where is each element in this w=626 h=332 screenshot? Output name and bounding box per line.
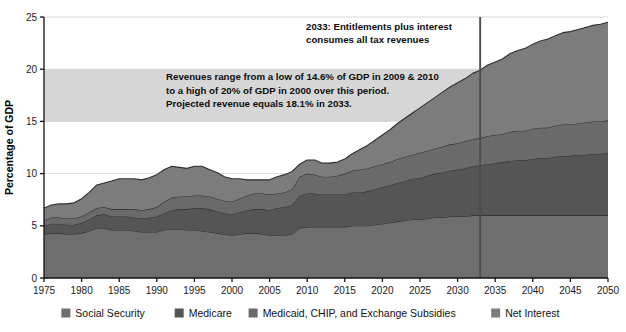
- chart-container: 0510152025197519801985199019952000200520…: [0, 0, 626, 332]
- legend-swatch-3: [491, 309, 500, 318]
- x-tick-label: 2050: [597, 285, 620, 296]
- stacked-area-chart: 0510152025197519801985199019952000200520…: [0, 0, 626, 332]
- y-tick-label: 20: [26, 64, 38, 75]
- x-tick-label: 2040: [522, 285, 545, 296]
- y-tick-label: 10: [26, 168, 38, 179]
- x-tick-label: 1990: [146, 285, 169, 296]
- x-tick-label: 2045: [559, 285, 582, 296]
- revenue-band-annotation-line: Projected revenue equals 18.1% in 2033.: [166, 98, 352, 109]
- revenue-band-annotation-line: to a high of 20% of GDP in 2000 over thi…: [166, 85, 390, 96]
- marker-annotation-line: consumes all tax revenues: [306, 34, 429, 45]
- x-tick-label: 2010: [296, 285, 319, 296]
- y-tick-label: 0: [31, 273, 37, 284]
- x-tick-label: 1995: [183, 285, 206, 296]
- x-tick-label: 2025: [409, 285, 432, 296]
- y-tick-label: 15: [26, 116, 38, 127]
- y-axis-ticks: 0510152025: [26, 12, 44, 284]
- legend-label-1: Medicare: [189, 307, 232, 319]
- x-tick-label: 1980: [70, 285, 93, 296]
- legend-swatch-1: [175, 309, 184, 318]
- revenue-band-annotation-line: Revenues range from a low of 14.6% of GD…: [166, 71, 439, 82]
- x-tick-label: 2035: [484, 285, 507, 296]
- legend-label-2: Medicaid, CHIP, and Exchange Subsidies: [263, 307, 456, 319]
- x-axis-ticks: 1975198019851990199520002005201020152020…: [33, 278, 620, 296]
- marker-annotation-line: 2033: Entitlements plus interest: [306, 21, 453, 32]
- y-axis-title: Percentage of GDP: [3, 100, 15, 195]
- x-tick-label: 2020: [371, 285, 394, 296]
- y-tick-label: 25: [26, 12, 38, 23]
- chart-legend: Social SecurityMedicareMedicaid, CHIP, a…: [61, 307, 559, 319]
- legend-swatch-2: [249, 309, 258, 318]
- x-tick-label: 2030: [446, 285, 469, 296]
- x-tick-label: 1985: [108, 285, 131, 296]
- legend-label-3: Net Interest: [505, 307, 559, 319]
- x-tick-label: 2015: [334, 285, 357, 296]
- x-tick-label: 2000: [221, 285, 244, 296]
- x-tick-label: 2005: [258, 285, 281, 296]
- x-tick-label: 1975: [33, 285, 56, 296]
- legend-swatch-0: [61, 309, 70, 318]
- y-tick-label: 5: [31, 220, 37, 231]
- legend-label-0: Social Security: [75, 307, 145, 319]
